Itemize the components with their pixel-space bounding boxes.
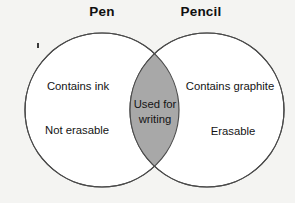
intersection-label: Used for writing — [134, 97, 177, 126]
left-set-title: Pen — [89, 4, 114, 19]
scan-speck-artifact — [37, 43, 39, 48]
venn-diagram: Pen Pencil Contains ink Not erasable Con… — [0, 0, 295, 203]
right-set-item-2: Erasable — [211, 124, 256, 138]
right-set-title: Pencil — [181, 4, 222, 19]
right-set-item-1: Contains graphite — [186, 79, 275, 93]
left-set-item-1: Contains ink — [47, 79, 109, 93]
left-set-item-2: Not erasable — [45, 123, 109, 137]
